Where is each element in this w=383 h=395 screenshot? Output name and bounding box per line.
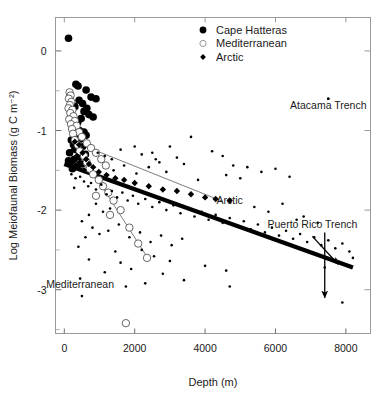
x-tick-label-1: 2000 bbox=[123, 342, 147, 354]
point-open-circle bbox=[102, 162, 109, 169]
point-small-dot bbox=[158, 161, 161, 164]
point-small-dot bbox=[119, 261, 122, 264]
point-small-dot bbox=[107, 230, 110, 233]
point-small-dot bbox=[114, 250, 117, 253]
point-small-dot bbox=[160, 234, 163, 237]
point-open-circle bbox=[92, 192, 99, 199]
point-small-dot bbox=[352, 257, 355, 260]
point-filled-circle bbox=[65, 157, 73, 165]
point-small-dot bbox=[91, 226, 94, 229]
point-small-dot bbox=[119, 148, 122, 151]
point-small-dot bbox=[172, 204, 175, 207]
legend-label-mediterranean: Mediterranean bbox=[216, 37, 287, 49]
point-small-dot bbox=[126, 199, 129, 202]
point-small-dot bbox=[260, 171, 263, 174]
point-small-dot bbox=[267, 210, 270, 213]
point-filled-circle bbox=[74, 82, 82, 90]
point-small-dot bbox=[116, 196, 119, 199]
point-small-dot bbox=[130, 268, 133, 271]
y-tick-label-2: -2 bbox=[37, 204, 46, 216]
point-small-dot bbox=[153, 255, 156, 258]
point-open-circle bbox=[78, 133, 85, 140]
point-small-dot bbox=[132, 194, 135, 197]
point-small-dot bbox=[96, 152, 99, 155]
point-small-dot bbox=[179, 212, 182, 215]
point-small-dot bbox=[334, 247, 337, 250]
point-filled-circle bbox=[65, 34, 73, 42]
point-open-circle bbox=[89, 171, 96, 178]
x-tick-label-4: 8000 bbox=[334, 342, 358, 354]
point-small-dot bbox=[183, 279, 186, 282]
point-small-dot bbox=[165, 171, 168, 174]
point-small-dot bbox=[144, 282, 147, 285]
point-small-dot bbox=[70, 173, 73, 176]
x-tick-label-3: 6000 bbox=[264, 342, 288, 354]
annotation-label-mediterranean-label: Mediterranean bbox=[46, 278, 114, 290]
point-small-dot bbox=[292, 237, 295, 240]
point-small-dot bbox=[190, 136, 193, 139]
point-small-dot bbox=[225, 269, 228, 272]
point-small-dot bbox=[170, 244, 173, 247]
point-small-dot bbox=[79, 175, 82, 178]
point-small-dot bbox=[278, 234, 281, 237]
point-small-dot bbox=[139, 231, 142, 234]
point-small-dot bbox=[302, 215, 305, 218]
point-small-dot bbox=[207, 218, 210, 221]
point-small-dot bbox=[228, 217, 231, 220]
point-filled-circle bbox=[92, 95, 100, 103]
point-small-dot bbox=[112, 169, 115, 172]
point-small-dot bbox=[264, 231, 267, 234]
point-small-dot bbox=[235, 225, 238, 228]
point-small-dot bbox=[133, 145, 136, 148]
point-filled-circle bbox=[89, 113, 97, 121]
point-small-dot bbox=[103, 155, 106, 158]
point-open-circle bbox=[143, 254, 150, 261]
point-small-dot bbox=[288, 175, 291, 178]
point-small-dot bbox=[74, 177, 77, 180]
point-small-dot bbox=[98, 233, 101, 236]
point-small-dot bbox=[228, 285, 231, 288]
point-small-dot bbox=[102, 210, 105, 213]
point-open-circle bbox=[122, 319, 129, 326]
point-small-dot bbox=[140, 249, 143, 252]
point-small-dot bbox=[341, 242, 344, 245]
point-small-dot bbox=[83, 180, 86, 183]
point-small-dot bbox=[200, 210, 203, 213]
point-open-circle bbox=[117, 206, 124, 213]
point-small-dot bbox=[95, 202, 98, 205]
point-small-dot bbox=[103, 271, 106, 274]
point-small-dot bbox=[140, 153, 143, 156]
point-small-dot bbox=[100, 183, 103, 186]
y-tick-label-3: -3 bbox=[37, 284, 46, 296]
point-small-dot bbox=[149, 241, 152, 244]
point-small-dot bbox=[183, 163, 186, 166]
point-small-dot bbox=[257, 223, 260, 226]
point-small-dot bbox=[327, 239, 330, 242]
point-small-dot bbox=[211, 150, 214, 153]
point-small-dot bbox=[87, 185, 90, 188]
point-small-dot bbox=[242, 220, 245, 223]
point-small-dot bbox=[204, 265, 207, 268]
legend-marker-filled-circle bbox=[200, 27, 207, 34]
point-small-dot bbox=[232, 164, 235, 167]
point-small-dot bbox=[111, 158, 114, 161]
x-tick-label-2: 4000 bbox=[193, 342, 217, 354]
point-small-dot bbox=[90, 182, 93, 185]
point-small-dot bbox=[246, 166, 249, 169]
point-small-dot bbox=[88, 214, 91, 217]
point-small-dot bbox=[135, 172, 138, 175]
point-small-dot bbox=[118, 223, 121, 226]
annotation-label-atacama-trench: Atacama Trench bbox=[290, 99, 367, 111]
point-small-dot bbox=[221, 222, 224, 225]
x-tick-label-0: 0 bbox=[61, 342, 67, 354]
y-tick-label-1: -1 bbox=[37, 125, 46, 137]
point-small-dot bbox=[348, 250, 351, 253]
point-small-dot bbox=[144, 198, 147, 201]
point-open-circle bbox=[106, 211, 113, 218]
point-small-dot bbox=[151, 152, 154, 155]
point-small-dot bbox=[128, 236, 131, 239]
legend-label-cape-hatteras: Cape Hatteras bbox=[216, 24, 287, 36]
point-small-dot bbox=[165, 209, 168, 212]
point-small-dot bbox=[281, 202, 284, 205]
point-small-dot bbox=[181, 237, 184, 240]
